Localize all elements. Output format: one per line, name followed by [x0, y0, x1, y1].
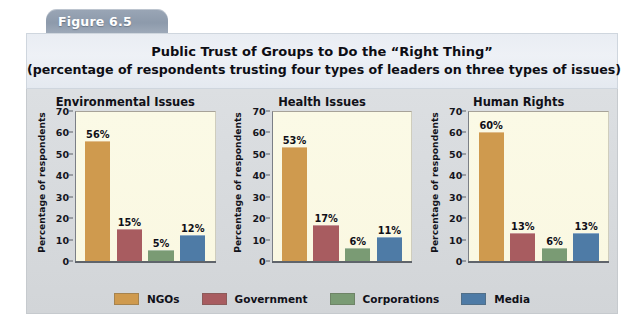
page-title: Public Trust of Groups to Do the “Right …: [27, 43, 617, 61]
plot-area: 53%17%6%11%: [272, 111, 413, 261]
figure-container: Figure 6.5 Public Trust of Groups to Do …: [0, 0, 643, 326]
bar-value-label: 17%: [314, 213, 337, 224]
y-tick-label: 40: [56, 170, 69, 181]
page-subtitle: (percentage of respondents trusting four…: [27, 61, 617, 79]
y-tick-mark: [266, 175, 270, 176]
chart-body-panel: Environmental IssuesPercentage of respon…: [26, 89, 618, 314]
legend-label: NGOs: [147, 293, 180, 305]
y-axis-ticks: 706050403020100: [47, 111, 73, 261]
y-tick-mark: [266, 218, 270, 219]
y-tick-mark: [462, 111, 466, 112]
bar-value-label: 60%: [479, 120, 502, 131]
bar-corporations: [542, 248, 567, 261]
figure-number-tab: Figure 6.5: [46, 9, 168, 34]
bar-value-label: 6%: [349, 236, 366, 247]
legend-item-corporations: Corporations: [330, 293, 440, 305]
y-tick-label: 60: [449, 127, 462, 138]
y-axis-label: Percentage of respondents: [34, 117, 48, 247]
y-tick-mark: [69, 111, 73, 112]
bar-slot: 56%: [85, 112, 110, 261]
legend-swatch-icon: [330, 293, 355, 305]
chart-panels-row: Environmental IssuesPercentage of respon…: [27, 89, 617, 274]
legend-swatch-icon: [461, 293, 486, 305]
y-tick-label: 0: [456, 256, 463, 267]
legend-item-media: Media: [461, 293, 530, 305]
figure-header-band: Public Trust of Groups to Do the “Right …: [26, 33, 618, 89]
y-tick-mark: [462, 239, 466, 240]
y-tick-mark: [266, 239, 270, 240]
bar-value-label: 53%: [283, 135, 306, 146]
chart-panel-3: Human RightsPercentage of respondents706…: [420, 89, 617, 274]
y-tick-label: 50: [252, 148, 265, 159]
legend-swatch-icon: [114, 293, 139, 305]
y-axis-label: Percentage of respondents: [427, 117, 441, 247]
y-tick-mark: [69, 196, 73, 197]
x-axis-line: [75, 261, 216, 263]
bar-slot: 6%: [542, 112, 567, 261]
bar-group: 60%13%6%13%: [475, 112, 602, 261]
y-tick-mark: [69, 218, 73, 219]
title-block: Public Trust of Groups to Do the “Right …: [27, 43, 617, 79]
chart-panel-1: Environmental IssuesPercentage of respon…: [27, 89, 224, 274]
plot-area: 60%13%6%13%: [468, 111, 609, 261]
bar-slot: 5%: [148, 112, 173, 261]
y-tick-mark: [462, 175, 466, 176]
y-tick-mark: [266, 153, 270, 154]
chart-panel-2: Health IssuesPercentage of respondents70…: [224, 89, 421, 274]
bar-value-label: 5%: [153, 238, 170, 249]
bar-slot: 6%: [345, 112, 370, 261]
y-tick-mark: [462, 153, 466, 154]
chart-legend: NGOsGovernmentCorporationsMedia: [27, 293, 617, 305]
bar-media: [180, 235, 205, 261]
legend-item-ngos: NGOs: [114, 293, 180, 305]
bar-value-label: 56%: [86, 129, 109, 140]
y-tick-mark: [266, 196, 270, 197]
bar-slot: 12%: [180, 112, 205, 261]
y-tick-label: 20: [56, 213, 69, 224]
y-tick-mark: [462, 218, 466, 219]
legend-label: Corporations: [363, 293, 440, 305]
bar-media: [573, 233, 598, 261]
y-axis-label: Percentage of respondents: [231, 117, 245, 247]
y-tick-mark: [266, 132, 270, 133]
y-tick-label: 50: [449, 148, 462, 159]
y-tick-mark: [462, 196, 466, 197]
bar-value-label: 13%: [574, 221, 597, 232]
y-tick-label: 0: [259, 256, 266, 267]
bar-ngos: [85, 141, 110, 261]
y-tick-label: 70: [449, 106, 462, 117]
bar-media: [377, 237, 402, 261]
y-tick-label: 30: [449, 191, 462, 202]
y-tick-mark: [69, 132, 73, 133]
y-tick-label: 70: [252, 106, 265, 117]
y-tick-label: 40: [449, 170, 462, 181]
bar-value-label: 12%: [181, 223, 204, 234]
legend-label: Government: [235, 293, 308, 305]
y-tick-label: 30: [252, 191, 265, 202]
y-tick-label: 10: [449, 234, 462, 245]
bar-slot: 11%: [377, 112, 402, 261]
y-axis-ticks: 706050403020100: [440, 111, 466, 261]
bar-slot: 13%: [510, 112, 535, 261]
y-tick-label: 10: [56, 234, 69, 245]
y-tick-mark: [266, 111, 270, 112]
bar-slot: 15%: [117, 112, 142, 261]
y-tick-label: 0: [62, 256, 69, 267]
y-tick-label: 20: [252, 213, 265, 224]
plot-area: 56%15%5%12%: [75, 111, 216, 261]
y-tick-label: 20: [449, 213, 462, 224]
y-tick-label: 50: [56, 148, 69, 159]
y-tick-label: 30: [56, 191, 69, 202]
y-tick-mark: [69, 175, 73, 176]
legend-label: Media: [494, 293, 530, 305]
bar-slot: 17%: [313, 112, 338, 261]
y-tick-label: 60: [252, 127, 265, 138]
bar-government: [117, 229, 142, 261]
bar-government: [510, 233, 535, 261]
bar-value-label: 6%: [546, 236, 563, 247]
bar-slot: 13%: [573, 112, 598, 261]
y-tick-mark: [69, 261, 73, 262]
y-tick-label: 40: [252, 170, 265, 181]
figure-number-label: Figure 6.5: [58, 14, 132, 29]
bar-value-label: 11%: [378, 225, 401, 236]
